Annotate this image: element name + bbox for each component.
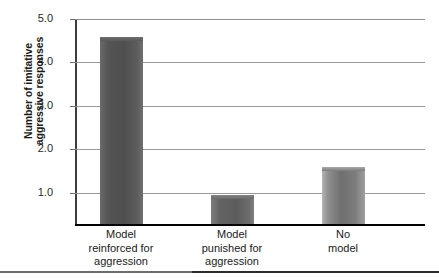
y-axis-title-line-2: aggressive responses — [34, 37, 46, 145]
x-label-1-line-3: aggression — [57, 255, 185, 269]
bar-chart-figure: Number of imitative aggressive responses… — [0, 0, 439, 278]
y-tick-label-1: 1.0 — [23, 187, 53, 198]
y-tick-label-3: 3.0 — [23, 100, 53, 111]
footer-rule-dark-segment — [192, 271, 439, 273]
x-label-3-line-2: model — [279, 242, 407, 256]
x-axis-baseline — [75, 224, 425, 226]
y-tick-2 — [70, 149, 75, 150]
x-label-model-punished: Model punished for aggression — [168, 228, 296, 269]
y-tick-label-2: 2.0 — [23, 143, 53, 154]
x-label-2-line-2: punished for — [168, 242, 296, 256]
x-label-model-reinforced: Model reinforced for aggression — [57, 228, 185, 269]
x-label-3-line-1: No — [279, 228, 407, 242]
y-tick-5 — [70, 19, 75, 20]
x-label-1-line-1: Model — [57, 228, 185, 242]
bar-top-cap-3 — [322, 167, 365, 171]
bar-model-reinforced — [100, 37, 143, 224]
y-tick-1 — [70, 193, 75, 194]
y-tick-3 — [70, 106, 75, 107]
x-label-no-model: No model — [279, 228, 407, 255]
x-label-2-line-3: aggression — [168, 255, 296, 269]
gridline-5 — [75, 19, 425, 20]
bar-model-punished — [211, 195, 254, 224]
bar-no-model — [322, 167, 365, 224]
x-label-1-line-2: reinforced for — [57, 242, 185, 256]
x-label-2-line-1: Model — [168, 228, 296, 242]
y-tick-label-5: 5.0 — [23, 13, 53, 24]
x-axis-labels: Model reinforced for aggression Model pu… — [75, 228, 425, 274]
y-tick-label-4: 4.0 — [23, 56, 53, 67]
bar-top-cap-1 — [100, 37, 143, 41]
plot-area: 5.0 4.0 3.0 2.0 1.0 — [75, 19, 425, 224]
y-tick-4 — [70, 62, 75, 63]
bar-top-cap-2 — [211, 195, 254, 199]
